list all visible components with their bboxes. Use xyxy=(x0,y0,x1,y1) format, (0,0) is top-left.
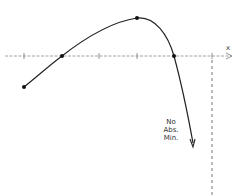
graph-canvas: x No Abs. Min. xyxy=(0,0,242,195)
annotation-line-1: No xyxy=(158,118,184,126)
no-abs-min-annotation: No Abs. Min. xyxy=(158,118,184,142)
left-endpoint xyxy=(22,85,26,89)
x-intercept-left xyxy=(60,54,64,58)
maximum-point xyxy=(135,16,139,20)
curve-points xyxy=(22,16,176,89)
x-axis-label: x xyxy=(226,44,230,52)
annotation-line-3: Min. xyxy=(158,134,184,142)
x-intercept-right xyxy=(172,54,176,58)
function-graph xyxy=(0,0,242,195)
annotation-line-2: Abs. xyxy=(158,126,184,134)
